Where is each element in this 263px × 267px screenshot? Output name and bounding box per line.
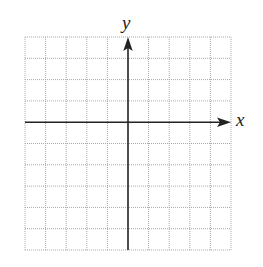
y-axis-label: y xyxy=(122,13,130,32)
coordinate-grid xyxy=(0,0,263,267)
x-axis-label: x xyxy=(236,110,244,129)
